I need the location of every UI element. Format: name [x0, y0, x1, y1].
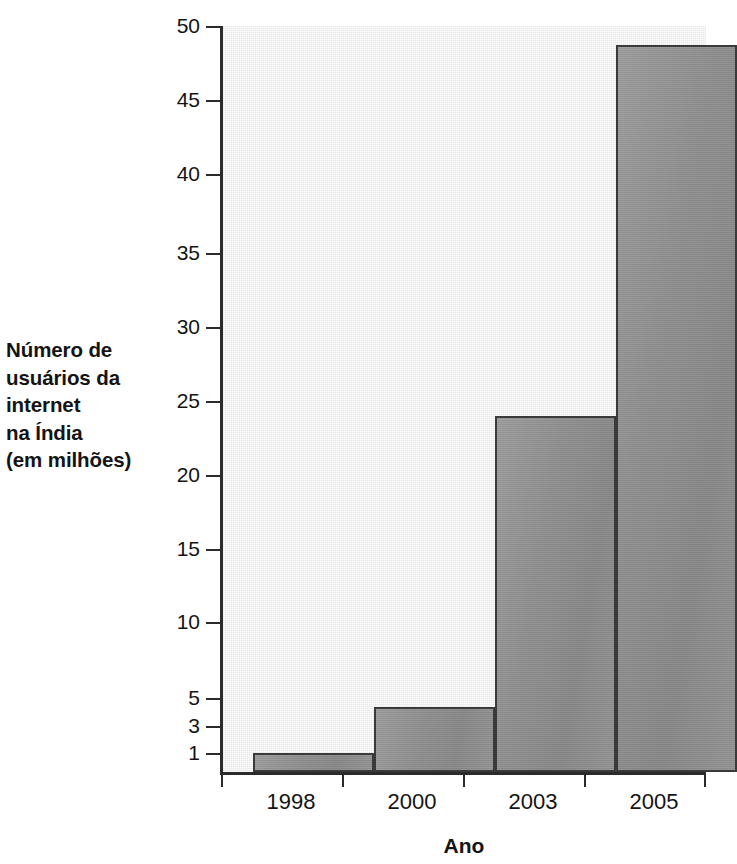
bar-2000	[374, 707, 495, 772]
y-axis-title: Número de usuários da internet na Índia …	[6, 336, 156, 474]
y-tick-label-5: 5	[140, 686, 200, 710]
y-tick-35	[206, 253, 220, 255]
y-axis-line	[220, 26, 223, 774]
y-tick-label-40: 40	[140, 162, 200, 186]
x-tick-label-2005: 2005	[589, 789, 719, 815]
y-tick-50	[206, 26, 220, 28]
x-tick-label-1998: 1998	[226, 789, 356, 815]
x-tick-separator-4	[704, 772, 706, 787]
bar-1998	[253, 753, 374, 772]
y-tick-25	[206, 401, 220, 403]
x-tick-separator-0	[221, 772, 223, 787]
bar-2003	[495, 416, 616, 772]
y-tick-45	[206, 100, 220, 102]
y-tick-label-3: 3	[140, 714, 200, 738]
y-tick-label-50: 50	[140, 14, 200, 38]
y-tick-30	[206, 327, 220, 329]
y-tick-10	[206, 622, 220, 624]
y-tick-40	[206, 174, 220, 176]
x-tick-separator-1	[342, 772, 344, 787]
bar-2005	[616, 45, 737, 772]
y-tick-label-10: 10	[140, 610, 200, 634]
plot-area	[222, 26, 706, 772]
y-tick-label-35: 35	[140, 241, 200, 265]
y-tick-label-25: 25	[140, 389, 200, 413]
x-tick-label-2003: 2003	[468, 789, 598, 815]
y-tick-5	[206, 698, 220, 700]
y-tick-label-30: 30	[140, 315, 200, 339]
y-tick-label-15: 15	[140, 537, 200, 561]
x-tick-label-2000: 2000	[347, 789, 477, 815]
x-tick-separator-3	[584, 772, 586, 787]
y-tick-label-20: 20	[140, 463, 200, 487]
y-tick-3	[206, 726, 220, 728]
y-tick-label-1: 1	[140, 741, 200, 765]
y-tick-1	[206, 753, 220, 755]
y-tick-label-45: 45	[140, 88, 200, 112]
x-tick-separator-2	[463, 772, 465, 787]
y-tick-15	[206, 549, 220, 551]
x-axis-title: Ano	[222, 834, 706, 858]
y-tick-20	[206, 475, 220, 477]
